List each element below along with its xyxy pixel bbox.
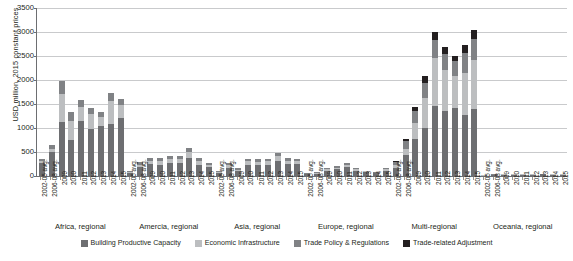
bar-group (125, 8, 213, 176)
x-label-slot: 2012 (174, 177, 184, 223)
bar-slot[interactable] (184, 8, 194, 176)
stacked-bar[interactable] (78, 100, 84, 176)
group-title: Multi-regional (390, 222, 479, 231)
bar-slot[interactable] (96, 8, 106, 176)
bar-slot[interactable] (558, 8, 568, 176)
bar-slot[interactable] (538, 8, 548, 176)
bar-slot[interactable] (391, 8, 401, 176)
group-title: Asia, regional (213, 222, 302, 231)
bar-slot[interactable] (410, 8, 420, 176)
bar-slot[interactable] (253, 8, 263, 176)
bar-slot[interactable] (293, 8, 303, 176)
stacked-bar[interactable] (88, 108, 94, 176)
bar-slot[interactable] (116, 8, 126, 176)
bar-slot[interactable] (76, 8, 86, 176)
bar-slot[interactable] (37, 8, 47, 176)
bar-slot[interactable] (489, 8, 499, 176)
bar-slot[interactable] (440, 8, 450, 176)
stacked-bar[interactable] (462, 45, 468, 176)
legend-item[interactable]: Trade Policy & Regulations (294, 240, 389, 247)
bar-slot[interactable] (66, 8, 76, 176)
legend-item[interactable]: Economic Infrastructure (195, 240, 280, 247)
bar-slot[interactable] (509, 8, 519, 176)
bar-slot[interactable] (302, 8, 312, 176)
bar-slot[interactable] (234, 8, 244, 176)
stacked-bar[interactable] (412, 107, 418, 176)
x-tick-label: 2015 (563, 171, 569, 185)
bar-slot[interactable] (283, 8, 293, 176)
x-label-slot: 2011 (75, 177, 85, 223)
bar-slot[interactable] (106, 8, 116, 176)
bar-slot[interactable] (135, 8, 145, 176)
stacked-bar[interactable] (59, 80, 65, 176)
bar-slot[interactable] (479, 8, 489, 176)
bar-slot[interactable] (214, 8, 224, 176)
bar-slot[interactable] (381, 8, 391, 176)
x-label-slot: 2006-08 avg. (46, 177, 56, 223)
stacked-bar[interactable] (118, 98, 124, 176)
stacked-bar[interactable] (108, 93, 114, 176)
bar-slot[interactable] (224, 8, 234, 176)
group-title: Africa, regional (36, 222, 125, 231)
bar-slot[interactable] (528, 8, 538, 176)
bar-segment (452, 76, 458, 108)
bar-slot[interactable] (342, 8, 352, 176)
bar-slot[interactable] (165, 8, 175, 176)
bar-slot[interactable] (322, 8, 332, 176)
bar-slot[interactable] (519, 8, 529, 176)
legend-item[interactable]: Building Productive Capacity (81, 240, 181, 247)
bar-slot[interactable] (155, 8, 165, 176)
x-label-slot: 2002-05 avg. (302, 177, 312, 223)
bar-group (214, 8, 302, 176)
bar-segment (108, 101, 114, 124)
bar-slot[interactable] (273, 8, 283, 176)
bar-slot[interactable] (204, 8, 214, 176)
stacked-bar[interactable] (422, 76, 428, 176)
bar-slot[interactable] (125, 8, 135, 176)
bar-segment (452, 108, 458, 176)
bar-slot[interactable] (499, 8, 509, 176)
bar-slot[interactable] (420, 8, 430, 176)
bar-slot[interactable] (263, 8, 273, 176)
bar-slot[interactable] (430, 8, 440, 176)
bar-slot[interactable] (175, 8, 185, 176)
bar-slot[interactable] (312, 8, 322, 176)
bar-segment (412, 123, 418, 138)
x-label-slot: 2012 (85, 177, 95, 223)
stacked-bar[interactable] (452, 56, 458, 176)
bar-slot[interactable] (548, 8, 558, 176)
bar-slot[interactable] (460, 8, 470, 176)
x-label-slot: 2011 (341, 177, 351, 223)
x-label-slot: 2010 (65, 177, 75, 223)
stacked-bar[interactable] (442, 47, 448, 176)
group-title: Oceania, regional (479, 222, 568, 231)
bar-segment (59, 81, 65, 95)
bar-slot[interactable] (361, 8, 371, 176)
bar-slot[interactable] (145, 8, 155, 176)
bar-slot[interactable] (243, 8, 253, 176)
bar-segment (98, 117, 104, 126)
x-label-slot: 2011 (252, 177, 262, 223)
bar-slot[interactable] (401, 8, 411, 176)
x-label-slot: 2006-08 avg. (400, 177, 410, 223)
bar-slot[interactable] (450, 8, 460, 176)
bar-segment (108, 93, 114, 101)
bar-slot[interactable] (57, 8, 67, 176)
stacked-bar[interactable] (471, 30, 477, 176)
bar-slot[interactable] (86, 8, 96, 176)
stacked-bar[interactable] (432, 32, 438, 176)
legend-item[interactable]: Trade-related Adjustment (403, 240, 492, 247)
stacked-bar[interactable] (98, 112, 104, 176)
bar-slot[interactable] (194, 8, 204, 176)
x-label-slot: 2014 (370, 177, 380, 223)
bar-slot[interactable] (371, 8, 381, 176)
bar-slot[interactable] (332, 8, 342, 176)
legend: Building Productive CapacityEconomic Inf… (0, 240, 573, 247)
bar-slot[interactable] (469, 8, 479, 176)
x-label-slot: 2014 (282, 177, 292, 223)
stacked-bar[interactable] (68, 112, 74, 176)
bar-slot[interactable] (47, 8, 57, 176)
group-title: Europe, regional (302, 222, 391, 231)
bar-segment (471, 30, 477, 39)
bar-slot[interactable] (352, 8, 362, 176)
